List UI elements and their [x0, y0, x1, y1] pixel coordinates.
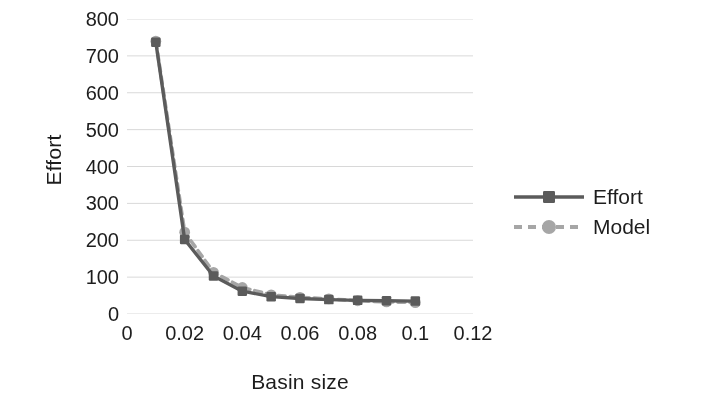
data-series-layer: [150, 36, 420, 308]
y-tick-label-400: 400: [55, 155, 119, 178]
y-tick-label-700: 700: [55, 44, 119, 67]
data-point-effort-8: [382, 296, 392, 306]
data-point-effort-1: [180, 235, 190, 245]
y-tick-label-500: 500: [55, 118, 119, 141]
y-tick-label-100: 100: [55, 266, 119, 289]
chart-legend: EffortModel: [512, 182, 712, 242]
legend-label-effort: Effort: [593, 185, 643, 209]
data-point-effort-6: [324, 295, 334, 305]
y-tick-label-800: 800: [55, 8, 119, 31]
data-point-effort-9: [411, 296, 421, 306]
legend-key-model-icon: [512, 216, 586, 238]
plot-svg: [127, 19, 473, 314]
data-point-effort-5: [295, 294, 305, 304]
y-tick-label-300: 300: [55, 192, 119, 215]
series-line-model: [156, 41, 416, 302]
legend-item-effort[interactable]: Effort: [512, 182, 712, 212]
legend-item-model[interactable]: Model: [512, 212, 712, 242]
legend-key-effort-icon: [512, 186, 586, 208]
x-axis-tick-labels: 00.020.040.060.080.10.12: [0, 322, 719, 356]
chart-container: Effort 0100200300400500600700800 00.020.…: [0, 0, 719, 417]
gridlines: [127, 19, 473, 314]
data-point-effort-7: [353, 296, 363, 306]
y-tick-label-200: 200: [55, 229, 119, 252]
x-axis-title: Basin size: [127, 370, 473, 394]
legend-label-model: Model: [593, 215, 650, 239]
series-effort: [151, 37, 420, 305]
y-tick-label-600: 600: [55, 81, 119, 104]
series-line-effort: [156, 42, 416, 301]
data-point-effort-2: [209, 271, 219, 281]
plot-area: [127, 19, 473, 314]
data-point-effort-4: [266, 292, 276, 302]
data-point-effort-3: [238, 286, 248, 296]
x-tick-label-0-12: 0.12: [438, 322, 508, 345]
series-model: [150, 36, 420, 308]
data-point-effort-0: [151, 37, 161, 47]
